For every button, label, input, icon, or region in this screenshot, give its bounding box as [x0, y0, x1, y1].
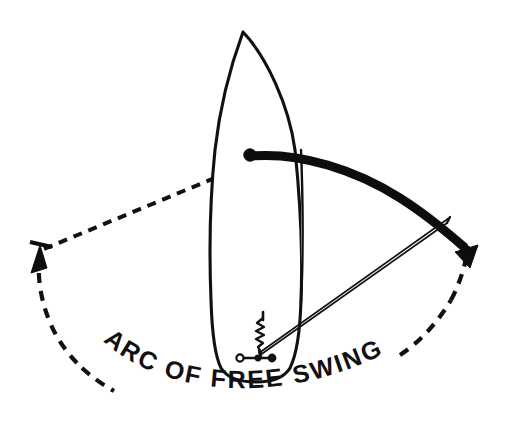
bow-pivot-dot	[244, 149, 256, 161]
deck-cleat-ring	[236, 354, 243, 361]
dashed-swing-circle-bottom-right	[400, 300, 451, 355]
dashed-swing-circle-bottom-left	[82, 368, 114, 391]
left-swing-arrow-cap	[30, 242, 52, 247]
hull-starboard-seam	[301, 150, 303, 302]
anchor-rode-cap	[447, 217, 450, 223]
boat-hull	[210, 32, 302, 382]
dashed-swing-circle-left	[39, 255, 82, 368]
deck-cleat-knob	[268, 354, 275, 361]
swing-arc-diagram: ARC OF FREE SWING	[0, 0, 513, 431]
diagram-canvas: ARC OF FREE SWING	[0, 0, 513, 431]
right-swing-arrowhead	[455, 245, 478, 268]
